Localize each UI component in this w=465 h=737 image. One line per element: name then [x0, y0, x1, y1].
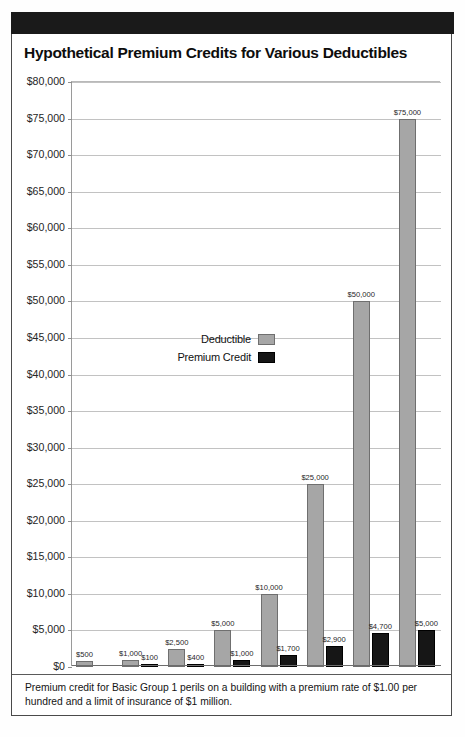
legend-label-premium-credit: Premium Credit [177, 351, 251, 363]
y-axis-tick-mark [68, 521, 72, 522]
y-axis-tick-mark [68, 667, 72, 668]
y-axis-tick-mark [68, 192, 72, 193]
y-axis-tick-label: $55,000 [3, 259, 65, 270]
bar-group: $10,000$1,700 [261, 82, 307, 667]
chart-page: Hypothetical Premium Credits for Various… [0, 0, 465, 737]
bottom-partial-text [3, 725, 83, 735]
y-axis-tick-mark [68, 338, 72, 339]
legend-swatch-premium-credit-icon [258, 352, 275, 363]
plot-area: $500$1,000$100$2,500$400$5,000$1,000$10,… [71, 81, 440, 666]
bar-group: $1,000$100 [122, 82, 168, 667]
y-axis-tick-label: $30,000 [3, 442, 65, 453]
y-axis-tick-label: $5,000 [3, 624, 65, 635]
y-axis-tick-label: $0 [3, 661, 65, 672]
bar-value-label-premium-credit: $1,000 [226, 650, 257, 658]
y-axis-tick-mark [68, 630, 72, 631]
bar-value-label-deductible: $5,000 [207, 620, 238, 628]
y-axis-tick-mark [68, 375, 72, 376]
legend-item-premium-credit: Premium Credit [140, 348, 275, 366]
legend-swatch-deductible-icon [258, 334, 275, 345]
bar-premium-credit [326, 646, 343, 667]
y-axis-tick-mark [68, 155, 72, 156]
y-axis-tick-label: $40,000 [3, 369, 65, 380]
bar-deductible [76, 661, 93, 667]
y-axis-tick-label: $75,000 [3, 113, 65, 124]
bar-value-label-deductible: $10,000 [254, 584, 285, 592]
bar-group: $5,000$1,000 [214, 82, 260, 667]
y-axis-tick-mark [68, 265, 72, 266]
bar-group: $75,000$5,000 [399, 82, 445, 667]
y-axis-tick-label: $70,000 [3, 149, 65, 160]
y-axis-tick-label: $10,000 [3, 588, 65, 599]
bar-value-label-premium-credit: $5,000 [411, 620, 442, 628]
y-axis-tick-label: $45,000 [3, 332, 65, 343]
x-axis-line [72, 665, 441, 666]
bar-value-label-deductible: $75,000 [392, 109, 423, 117]
chart-legend: Deductible Premium Credit [140, 330, 275, 366]
y-axis-tick-label: $35,000 [3, 405, 65, 416]
y-axis-tick-label: $25,000 [3, 478, 65, 489]
bar-value-label-premium-credit: $2,900 [319, 636, 350, 644]
bar-value-label-premium-credit: $400 [180, 654, 211, 662]
bar-value-label-premium-credit: $1,700 [273, 645, 304, 653]
footnote-text: Premium credit for Basic Group 1 perils … [25, 681, 435, 709]
bar-deductible [399, 119, 416, 667]
bar-value-label-premium-credit: $100 [134, 654, 165, 662]
bar-group: $2,500$400 [168, 82, 214, 667]
bar-deductible [261, 594, 278, 667]
legend-label-deductible: Deductible [201, 333, 251, 345]
y-axis-tick-mark [68, 228, 72, 229]
y-axis-tick-mark [68, 448, 72, 449]
y-axis-tick-label: $65,000 [3, 186, 65, 197]
y-axis-tick-mark [68, 82, 72, 83]
y-axis-tick-label: $60,000 [3, 222, 65, 233]
y-axis-tick-label: $15,000 [3, 551, 65, 562]
y-axis-tick-label: $80,000 [3, 76, 65, 87]
bar-premium-credit [372, 633, 389, 667]
y-axis-tick-mark [68, 119, 72, 120]
bar-deductible [353, 301, 370, 667]
bar-premium-credit [418, 630, 435, 667]
bar-group: $500 [76, 82, 122, 667]
footnote-divider [12, 674, 451, 675]
bar-value-label-deductible: $50,000 [346, 291, 377, 299]
bar-value-label-deductible: $500 [69, 651, 100, 659]
y-axis-tick-label: $50,000 [3, 295, 65, 306]
legend-item-deductible: Deductible [140, 330, 275, 348]
bar-series-container: $500$1,000$100$2,500$400$5,000$1,000$10,… [72, 82, 441, 667]
y-axis-tick-label: $20,000 [3, 515, 65, 526]
y-axis-tick-mark [68, 557, 72, 558]
bar-value-label-deductible: $2,500 [161, 639, 192, 647]
y-axis-tick-mark [68, 301, 72, 302]
bar-value-label-premium-credit: $4,700 [365, 623, 396, 631]
y-axis-tick-mark [68, 411, 72, 412]
y-axis-tick-mark [68, 594, 72, 595]
y-axis-tick-mark [68, 484, 72, 485]
bar-value-label-deductible: $25,000 [300, 474, 331, 482]
bar-group: $25,000$2,900 [307, 82, 353, 667]
bar-group: $50,000$4,700 [353, 82, 399, 667]
